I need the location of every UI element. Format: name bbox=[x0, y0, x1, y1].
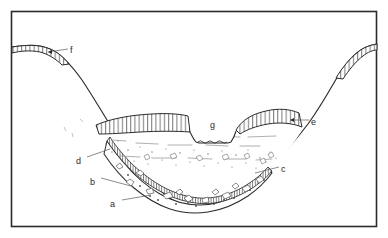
label-g: g bbox=[210, 120, 215, 130]
label-b: b bbox=[90, 177, 95, 187]
label-e: e bbox=[311, 117, 316, 127]
label-a: a bbox=[110, 199, 115, 209]
river-channel bbox=[190, 131, 236, 143]
label-d: d bbox=[76, 156, 81, 166]
label-f: f bbox=[70, 45, 73, 55]
figure-root: abcdefg bbox=[0, 0, 388, 238]
cross-section-diagram bbox=[0, 0, 388, 238]
label-c: c bbox=[281, 164, 286, 174]
